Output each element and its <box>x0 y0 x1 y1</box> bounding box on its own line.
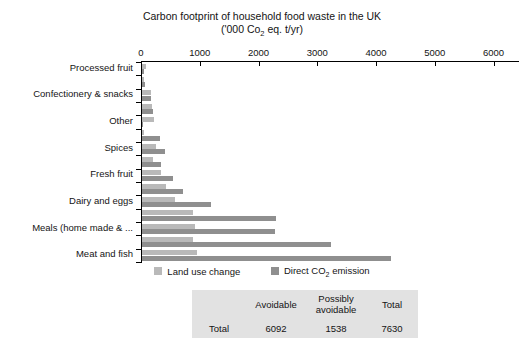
bar-direct-co2-emission <box>142 256 391 261</box>
bar-land-use-change <box>142 237 193 242</box>
y-axis-tick <box>136 129 141 130</box>
summary-table-row-total: Total 6092 1538 7630 <box>192 318 418 338</box>
x-axis-tick-label: 2000 <box>248 47 269 58</box>
bar-land-use-change <box>142 250 197 255</box>
bar-direct-co2-emission <box>142 176 173 181</box>
bar-direct-co2-emission <box>142 189 183 194</box>
summary-table-cell-avoidable: 6092 <box>246 318 306 338</box>
legend-label-direct-co2-emission: Direct CO2 emission <box>284 265 370 276</box>
summary-table-header-row: Avoidable Possibly avoidable Total <box>192 290 418 318</box>
chart-subtitle: ('000 Co2 eq. t/yr) <box>0 23 524 40</box>
summary-table-header-possibly-line1: Possibly <box>318 293 353 304</box>
legend-swatch-icon-direct-co2-emission <box>271 267 279 275</box>
bar-land-use-change <box>142 90 151 95</box>
bar-direct-co2-emission <box>142 242 331 247</box>
y-axis-category-label: Meat and fish <box>0 248 133 259</box>
bar-direct-co2-emission <box>142 229 275 234</box>
x-axis-tick-label: 3000 <box>307 47 328 58</box>
x-axis-tick <box>435 62 436 66</box>
legend-label-suffix: emission <box>330 265 370 276</box>
legend-item-direct-co2-emission: Direct CO2 emission <box>271 265 370 278</box>
y-axis-tick <box>136 182 141 183</box>
x-axis-tick <box>200 62 201 66</box>
y-axis-category-label: Processed fruit <box>0 62 133 73</box>
bar-direct-co2-emission <box>142 96 151 101</box>
legend-label-land-use-change: Land use change <box>167 266 240 277</box>
y-axis-category-label: Other <box>0 115 133 126</box>
bar-direct-co2-emission <box>142 82 145 87</box>
x-axis-tick <box>376 62 377 66</box>
summary-table-header-blank <box>192 290 246 318</box>
summary-table-cell-possibly-avoidable: 1538 <box>306 318 366 338</box>
y-axis-tick <box>136 169 141 170</box>
y-axis-tick <box>136 75 141 76</box>
chart-legend: Land use change Direct CO2 emission <box>0 265 524 278</box>
y-axis-tick <box>136 115 141 116</box>
chart-subtitle-suffix: eq. t/yr) <box>265 23 304 35</box>
bar-direct-co2-emission <box>142 69 144 74</box>
chart-title-block: Carbon footprint of household food waste… <box>0 10 524 40</box>
summary-table: Avoidable Possibly avoidable Total Total… <box>192 290 418 338</box>
x-axis-tick-label: 5000 <box>424 47 445 58</box>
summary-table-header-possibly-avoidable: Possibly avoidable <box>306 290 366 318</box>
y-axis-category-label: Meals (home made & ... <box>0 222 133 233</box>
summary-table-cell-total: 7630 <box>366 318 418 338</box>
bar-land-use-change <box>142 210 193 215</box>
bar-land-use-change <box>142 130 144 135</box>
summary-table-header-avoidable: Avoidable <box>246 290 306 318</box>
bar-direct-co2-emission <box>142 202 211 207</box>
legend-swatch-icon-land-use-change <box>154 267 162 275</box>
bar-direct-co2-emission <box>142 122 143 127</box>
bar-direct-co2-emission <box>142 136 160 141</box>
bar-land-use-change <box>142 170 161 175</box>
x-axis-tick <box>317 62 318 66</box>
y-axis-category-label: Fresh fruit <box>0 168 133 179</box>
x-axis-tick <box>494 62 495 66</box>
x-axis-tick-label: 1000 <box>189 47 210 58</box>
legend-label-prefix: Direct CO <box>284 265 326 276</box>
summary-table-grid: Avoidable Possibly avoidable Total Total… <box>192 290 418 338</box>
y-axis-tick <box>136 142 141 143</box>
y-axis-tick <box>136 62 141 63</box>
x-axis-tick-label: 0 <box>138 47 143 58</box>
y-axis-tick <box>136 249 141 250</box>
bar-land-use-change <box>142 197 175 202</box>
bar-direct-co2-emission <box>142 162 161 167</box>
bar-land-use-change <box>142 144 156 149</box>
chart-subtitle-prefix: ('000 Co <box>221 23 260 35</box>
y-axis-tick <box>136 102 141 103</box>
y-axis-category-label: Dairy and eggs <box>0 195 133 206</box>
bar-direct-co2-emission <box>142 109 153 114</box>
y-axis-category-label: Confectionery & snacks <box>0 88 133 99</box>
bar-land-use-change <box>142 184 166 189</box>
x-axis-tick-label: 4000 <box>365 47 386 58</box>
bar-land-use-change <box>142 64 146 69</box>
bar-direct-co2-emission <box>142 149 165 154</box>
chart-title: Carbon footprint of household food waste… <box>0 10 524 23</box>
bar-land-use-change <box>142 117 154 122</box>
x-axis-line <box>141 61 519 62</box>
y-axis-tick <box>136 235 141 236</box>
bar-land-use-change <box>142 104 152 109</box>
summary-table-header-total: Total <box>366 290 418 318</box>
summary-table-header-possibly-line2: avoidable <box>316 304 357 315</box>
bar-land-use-change <box>142 224 195 229</box>
y-axis-tick <box>136 155 141 156</box>
y-axis-tick <box>136 195 141 196</box>
chart-root: Carbon footprint of household food waste… <box>0 0 524 345</box>
legend-item-land-use-change: Land use change <box>154 265 240 277</box>
y-axis-category-label: Spices <box>0 142 133 153</box>
bar-land-use-change <box>142 77 144 82</box>
y-axis-tick <box>136 222 141 223</box>
y-axis-tick <box>136 89 141 90</box>
bar-land-use-change <box>142 157 153 162</box>
bar-direct-co2-emission <box>142 216 276 221</box>
summary-table-row-label: Total <box>192 318 246 338</box>
y-axis-tick <box>136 262 141 263</box>
x-axis-tick-label: 6000 <box>483 47 504 58</box>
x-axis-tick <box>259 62 260 66</box>
y-axis-tick <box>136 209 141 210</box>
